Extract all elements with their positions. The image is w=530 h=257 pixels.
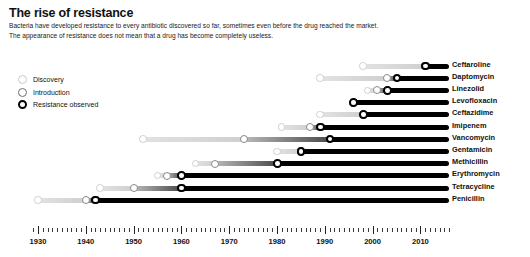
axis-tick-minor: [358, 228, 359, 232]
timeline-row[interactable]: Daptomycin: [0, 72, 530, 84]
axis-tick-minor: [444, 228, 445, 232]
axis-tick-minor: [392, 228, 393, 232]
timeline-row[interactable]: Methicillin: [0, 158, 530, 170]
discovery-marker-icon[interactable]: [96, 184, 104, 192]
axis-tick-minor: [411, 228, 412, 232]
axis-tick-minor: [344, 228, 345, 232]
resistance-marker-icon[interactable]: [359, 110, 368, 119]
timeline-row[interactable]: Levofloxacin: [0, 97, 530, 109]
timeline-row[interactable]: Penicillin: [0, 194, 530, 206]
bar-segment-resistance-to-present: [363, 112, 449, 117]
resistance-marker-icon[interactable]: [297, 147, 306, 156]
axis-tick-minor: [95, 228, 96, 232]
bar-segment-discovery-to-introduction: [38, 198, 86, 203]
axis-tick-minor: [363, 228, 364, 232]
axis-tick-label: 2010: [412, 237, 429, 246]
discovery-marker-icon[interactable]: [316, 74, 324, 82]
axis-tick-minor: [296, 228, 297, 232]
resistance-marker-icon[interactable]: [393, 74, 402, 83]
introduction-marker-icon[interactable]: [306, 123, 314, 131]
resistance-marker-icon[interactable]: [383, 86, 392, 95]
axis-tick-minor: [191, 228, 192, 232]
introduction-marker-icon[interactable]: [240, 135, 248, 143]
discovery-marker-icon[interactable]: [359, 62, 367, 70]
introduction-marker-icon[interactable]: [383, 74, 391, 82]
resistance-marker-icon[interactable]: [326, 135, 335, 144]
axis-tick-major: [134, 226, 135, 234]
discovery-marker-icon[interactable]: [278, 123, 286, 131]
bar-segment-resistance-to-present: [95, 198, 449, 203]
timeline-row[interactable]: Vancomycin: [0, 133, 530, 145]
axis-tick-minor: [91, 228, 92, 232]
resistance-marker-icon[interactable]: [349, 98, 358, 107]
bar-segment-resistance-to-present: [181, 186, 449, 191]
bar-segment-discovery-to-introduction: [363, 64, 425, 69]
introduction-marker-icon[interactable]: [82, 196, 90, 204]
chart-root: The rise of resistance Bacteria have dev…: [0, 0, 530, 257]
timeline-row[interactable]: Linezolid: [0, 84, 530, 96]
discovery-marker-icon[interactable]: [316, 111, 324, 119]
axis-tick-major: [373, 226, 374, 234]
axis-tick-label: 1980: [269, 237, 286, 246]
drug-label: Penicillin: [452, 194, 484, 203]
axis-tick-minor: [263, 228, 264, 232]
introduction-marker-icon[interactable]: [373, 86, 381, 94]
axis-tick-label: 1940: [77, 237, 94, 246]
axis-tick-minor: [201, 228, 202, 232]
axis-tick-minor: [301, 228, 302, 232]
timeline-row[interactable]: Ceftaroline: [0, 60, 530, 72]
axis-tick-minor: [153, 228, 154, 232]
bar-segment-introduction-to-resistance: [215, 161, 277, 166]
axis-tick-minor: [287, 228, 288, 232]
introduction-marker-icon[interactable]: [163, 172, 171, 180]
resistance-marker-icon[interactable]: [91, 196, 100, 205]
resistance-marker-icon[interactable]: [177, 184, 186, 193]
axis-tick-minor: [368, 228, 369, 232]
axis-tick-minor: [401, 228, 402, 232]
axis-tick-minor: [148, 228, 149, 232]
drug-label: Ceftaroline: [452, 60, 491, 69]
axis-tick-minor: [119, 228, 120, 232]
axis-tick-minor: [196, 228, 197, 232]
axis-tick-minor: [406, 228, 407, 232]
timeline-row[interactable]: Gentamicin: [0, 145, 530, 157]
axis-tick-minor: [310, 228, 311, 232]
axis-tick-minor: [220, 228, 221, 232]
timeline-row[interactable]: Erythromycin: [0, 170, 530, 182]
resistance-marker-icon[interactable]: [421, 62, 430, 71]
axis-tick-major: [38, 226, 39, 234]
discovery-marker-icon[interactable]: [154, 172, 162, 180]
resistance-marker-icon[interactable]: [273, 159, 282, 168]
axis-tick-minor: [81, 228, 82, 232]
discovery-marker-icon[interactable]: [139, 135, 147, 143]
resistance-marker-icon[interactable]: [177, 171, 186, 180]
axis-tick-minor: [205, 228, 206, 232]
bar-segment-resistance-to-present: [330, 137, 450, 142]
axis-tick-minor: [382, 228, 383, 232]
axis-tick-label: 1990: [316, 237, 333, 246]
axis-tick-minor: [234, 228, 235, 232]
axis-tick-minor: [100, 228, 101, 232]
axis-tick-label: 1970: [221, 237, 238, 246]
timeline-row[interactable]: Tetracycline: [0, 182, 530, 194]
discovery-marker-icon[interactable]: [192, 160, 200, 168]
axis-tick-minor: [248, 228, 249, 232]
axis-tick-major: [181, 226, 182, 234]
drug-label: Erythromycin: [452, 169, 500, 178]
axis-tick-minor: [330, 228, 331, 232]
axis-tick-minor: [440, 228, 441, 232]
introduction-marker-icon[interactable]: [211, 160, 219, 168]
axis-tick-minor: [224, 228, 225, 232]
discovery-marker-icon[interactable]: [34, 196, 42, 204]
discovery-marker-icon[interactable]: [364, 87, 372, 95]
bar-segment-discovery-to-introduction: [143, 137, 243, 142]
introduction-marker-icon[interactable]: [130, 184, 138, 192]
timeline-row[interactable]: Imipenem: [0, 121, 530, 133]
timeline-row[interactable]: Ceftazidime: [0, 109, 530, 121]
resistance-marker-icon[interactable]: [316, 123, 325, 132]
axis-tick-minor: [306, 228, 307, 232]
discovery-marker-icon[interactable]: [273, 148, 281, 156]
axis-tick-minor: [449, 228, 450, 232]
drug-label: Methicillin: [452, 157, 488, 166]
axis-tick-minor: [416, 228, 417, 232]
